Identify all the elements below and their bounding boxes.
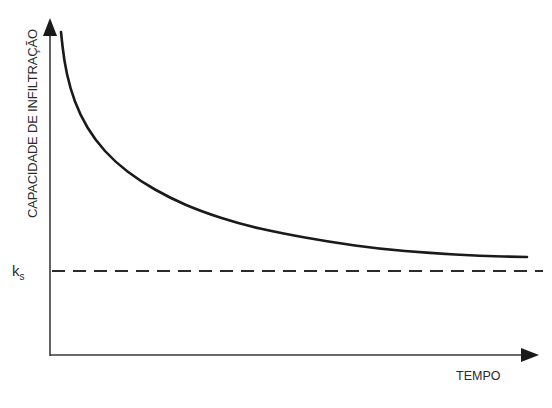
x-axis-arrow-icon [521, 348, 539, 362]
ks-label: ks [12, 262, 25, 282]
y-axis-arrow-icon [43, 18, 57, 36]
infiltration-curve [61, 32, 527, 257]
ks-label-subscript: s [20, 271, 25, 282]
x-axis-label: TEMPO [456, 369, 501, 383]
y-axis-label: CAPACIDADE DE INFILTRAÇÃO [25, 29, 40, 218]
infiltration-chart: CAPACIDADE DE INFILTRAÇÃO TEMPO ks [0, 0, 552, 408]
